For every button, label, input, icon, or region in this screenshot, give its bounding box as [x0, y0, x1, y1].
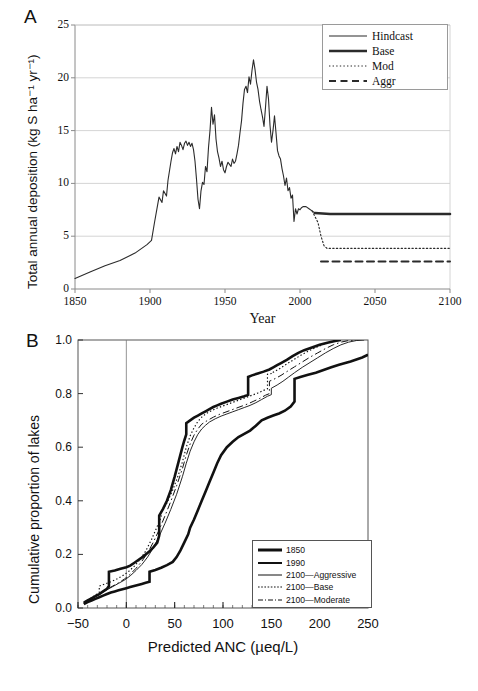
panel-b: B Cumulative proportion of lakes Predict… — [0, 318, 478, 691]
legend-key — [257, 582, 283, 592]
legend-key — [257, 570, 283, 580]
legend-key — [328, 45, 368, 57]
panel-a-y-axis-label: Total annual deposition (kg S ha⁻¹ yr⁻¹) — [24, 54, 40, 289]
panel-b-letter: B — [26, 330, 39, 352]
legend-item: Hindcast — [328, 28, 442, 43]
panel-b-x-axis-label: Predicted ANC (µeq/L) — [78, 638, 368, 655]
figure-root: A Total annual deposition (kg S ha⁻¹ yr⁻… — [0, 0, 478, 691]
legend-key — [257, 595, 283, 605]
legend-key — [257, 545, 283, 555]
legend-label: Aggr — [368, 75, 396, 87]
panel-a-letter: A — [24, 6, 37, 28]
panel-b-ytick-label: 1.0 — [44, 333, 72, 347]
panel-b-xtick-label: 0 — [104, 616, 148, 631]
legend-label: Hindcast — [368, 30, 413, 42]
panel-a-ytick-label: 10 — [45, 176, 69, 188]
legend-key — [257, 558, 283, 568]
legend-label: 2100—Moderate — [283, 595, 350, 605]
panel-a-xtick-label: 2050 — [353, 295, 397, 307]
legend-item: Base — [328, 43, 442, 58]
legend-label: 1850 — [283, 545, 305, 555]
panel-b-ytick-label: 0.4 — [44, 494, 72, 508]
legend-item: 1990 — [257, 556, 367, 568]
panel-b-ytick-label: 0.8 — [44, 387, 72, 401]
legend-item: 2100—Moderate — [257, 594, 367, 606]
series-base — [315, 213, 450, 214]
series-hindcast — [75, 60, 315, 279]
panel-b-xtick-label: 200 — [298, 616, 342, 631]
legend-item: 1850 — [257, 544, 367, 556]
legend-label: 2100—Base — [283, 582, 333, 592]
legend-label: 2100—Aggressive — [283, 570, 356, 580]
panel-a-ytick-label: 5 — [45, 229, 69, 241]
series-mod — [312, 211, 450, 248]
legend-label: 1990 — [283, 558, 305, 568]
panel-a-xtick-label: 1900 — [128, 295, 172, 307]
panel-b-ytick-label: 0.2 — [44, 547, 72, 561]
panel-a-ytick-label: 15 — [45, 124, 69, 136]
legend-key — [328, 60, 368, 72]
legend-item: 2100—Aggressive — [257, 569, 367, 581]
legend-item: 2100—Base — [257, 581, 367, 593]
panel-b-xtick-label: 100 — [201, 616, 245, 631]
panel-b-y-axis-label: Cumulative proportion of lakes — [26, 415, 42, 604]
legend-item: Mod — [328, 58, 442, 73]
panel-b-xtick-label: 250 — [346, 616, 390, 631]
panel-b-xtick-label: 50 — [153, 616, 197, 631]
panel-a-ytick-label: 20 — [45, 71, 69, 83]
panel-b-legend: 185019902100—Aggressive2100—Base2100—Mod… — [252, 540, 372, 608]
panel-b-xtick-label: −50 — [56, 616, 100, 631]
panel-a-legend: HindcastBaseModAggr — [322, 24, 448, 90]
panel-a-xtick-label: 2100 — [428, 295, 472, 307]
legend-key — [328, 30, 368, 42]
legend-label: Base — [368, 45, 394, 57]
panel-b-ytick-label: 0.6 — [44, 440, 72, 454]
panel-a-xtick-label: 1850 — [53, 295, 97, 307]
panel-b-xtick-label: 150 — [249, 616, 293, 631]
legend-key — [328, 75, 368, 87]
panel-a: A Total annual deposition (kg S ha⁻¹ yr⁻… — [0, 0, 478, 320]
panel-a-xtick-label: 1950 — [203, 295, 247, 307]
legend-label: Mod — [368, 60, 394, 72]
legend-item: Aggr — [328, 73, 442, 88]
panel-b-ytick-label: 0.0 — [44, 601, 72, 615]
panel-a-xtick-label: 2000 — [278, 295, 322, 307]
panel-a-ytick-label: 25 — [45, 18, 69, 30]
panel-a-ytick-label: 0 — [45, 282, 69, 294]
